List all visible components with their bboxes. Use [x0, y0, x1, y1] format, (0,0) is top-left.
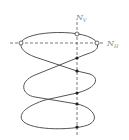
- curve: [21, 32, 98, 128]
- open-point: [19, 41, 23, 45]
- label-nv: NV: [75, 13, 88, 23]
- open-point: [75, 32, 79, 36]
- filled-point: [75, 102, 78, 105]
- filled-point: [75, 56, 78, 59]
- filled-point: [75, 91, 78, 94]
- twisted-curve-diagram: NV NH: [0, 0, 129, 140]
- filled-point: [75, 69, 78, 72]
- open-point: [95, 41, 99, 45]
- diagram-canvas: NV NH: [0, 0, 129, 140]
- filled-point: [75, 125, 78, 128]
- label-nh: NH: [106, 39, 119, 49]
